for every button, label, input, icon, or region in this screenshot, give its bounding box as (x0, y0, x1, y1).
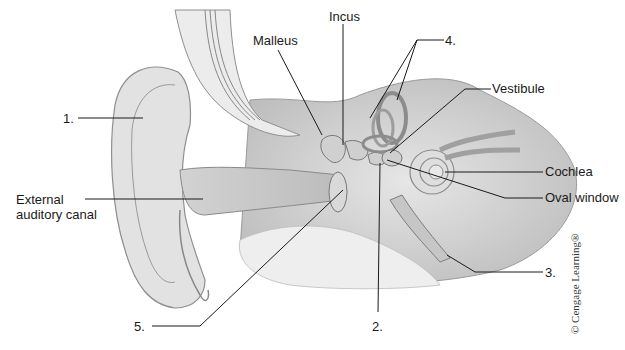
ear-diagram: 1. Malleus Incus 4. Vestibule Cochlea Ov… (0, 0, 625, 350)
label-external-auditory-canal-line2: auditory canal (16, 207, 97, 222)
label-num2: 2. (372, 319, 383, 334)
label-cochlea: Cochlea (545, 164, 593, 179)
label-vestibule: Vestibule (492, 81, 545, 96)
label-external-auditory-canal-line1: External (16, 192, 64, 207)
label-oval-window: Oval window (545, 190, 619, 205)
label-num5: 5. (134, 319, 145, 334)
copyright-notice: © Cengage Learning® (569, 234, 581, 334)
tympanic-membrane (329, 172, 347, 212)
label-malleus: Malleus (253, 33, 298, 48)
label-num4: 4. (445, 33, 456, 48)
label-incus: Incus (329, 9, 360, 24)
label-num1: 1. (63, 111, 74, 126)
label-num3: 3. (545, 265, 556, 280)
ear-illustration (0, 0, 625, 350)
